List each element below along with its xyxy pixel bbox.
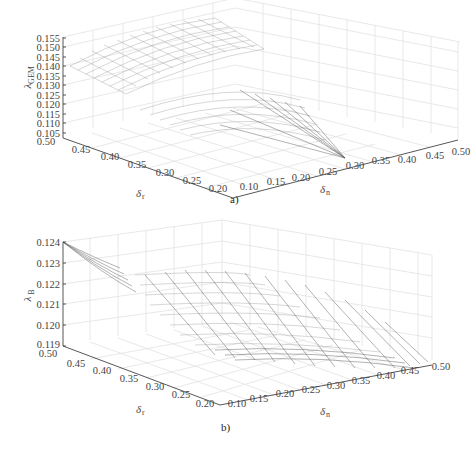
x-tick: 0.40	[377, 370, 395, 381]
x-tick: 0.15	[267, 176, 285, 187]
x-tick: 0.45	[426, 150, 444, 161]
y-tick: 0.40	[101, 151, 119, 162]
svg-text:B: B	[27, 289, 36, 294]
y-tick: 0.30	[156, 167, 174, 178]
z-tick: 0.123	[36, 258, 60, 269]
x-tick: 0.10	[240, 181, 258, 192]
chart-b-z-ticks: 0.124 0.123 0.122 0.121 0.120 0.119	[36, 237, 60, 350]
y-tick: 0.20	[196, 398, 214, 409]
chart-a-z-label: λ GEM	[21, 66, 36, 89]
chart-b-x-label: δ n	[320, 405, 330, 419]
y-tick: 0.25	[172, 389, 190, 400]
z-tick: 0.120	[36, 320, 60, 331]
x-tick: 0.25	[302, 384, 320, 395]
x-tick: 0.15	[250, 393, 268, 404]
x-tick: 0.50	[432, 361, 450, 372]
y-tick: 0.45	[72, 144, 90, 155]
figure: 0.155 0.150 0.145 0.140 0.135 0.130 0.12…	[0, 0, 476, 449]
x-tick: 0.35	[372, 155, 390, 166]
chart-b-z-label: λ B	[21, 289, 36, 302]
chart-a-y-label: δ r	[136, 187, 145, 201]
x-tick: 0.20	[292, 172, 310, 183]
x-tick: 0.10	[228, 398, 246, 409]
y-tick: 0.20	[209, 183, 227, 194]
chart-b-x-ticks: 0.10 0.15 0.20 0.25 0.30 0.35 0.40 0.45 …	[228, 361, 450, 409]
z-tick: 0.121	[36, 299, 60, 310]
x-tick: 0.40	[398, 154, 416, 165]
chart-b-caption: b)	[221, 421, 231, 434]
y-tick: 0.35	[120, 373, 138, 384]
svg-text:GEM: GEM	[27, 66, 36, 84]
z-tick: 0.122	[36, 279, 60, 290]
chart-a-y-ticks: 0.50 0.45 0.40 0.35 0.30 0.25 0.20	[37, 136, 227, 194]
chart-a-x-label: δ n	[320, 183, 330, 197]
x-tick: 0.25	[319, 166, 337, 177]
y-tick: 0.30	[146, 381, 164, 392]
x-tick: 0.30	[346, 160, 364, 171]
chart-b: 0.124 0.123 0.122 0.121 0.120 0.119 λ B …	[21, 220, 450, 434]
x-tick: 0.45	[401, 365, 419, 376]
chart-b-y-label: δ r	[136, 403, 145, 417]
chart-a-surface	[70, 18, 345, 158]
svg-text:λ: λ	[21, 296, 33, 302]
y-tick: 0.40	[93, 365, 111, 376]
y-tick: 0.45	[67, 358, 85, 369]
svg-text:n: n	[326, 188, 330, 197]
x-tick: 0.30	[327, 380, 345, 391]
y-tick: 0.35	[128, 159, 146, 170]
chart-a: 0.155 0.150 0.145 0.140 0.135 0.130 0.12…	[21, 0, 470, 206]
x-tick: 0.20	[276, 388, 294, 399]
z-tick: 0.124	[36, 237, 60, 248]
y-tick: 0.50	[39, 348, 57, 359]
chart-a-z-ticks: 0.155 0.150 0.145 0.140 0.135 0.130 0.12…	[36, 33, 60, 139]
x-tick: 0.35	[352, 375, 370, 386]
svg-text:r: r	[142, 408, 145, 417]
chart-b-y-ticks: 0.50 0.45 0.40 0.35 0.30 0.25 0.20	[39, 348, 214, 409]
svg-text:n: n	[326, 410, 330, 419]
svg-text:r: r	[142, 192, 145, 201]
y-tick: 0.50	[37, 136, 55, 147]
y-tick: 0.25	[183, 175, 201, 186]
chart-a-caption: a)	[230, 193, 239, 206]
x-tick: 0.50	[452, 146, 470, 157]
